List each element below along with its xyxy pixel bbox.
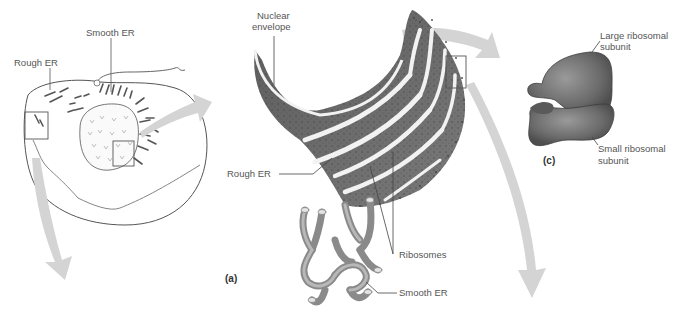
label-nuclear-envelope-line1: Nuclear <box>257 10 290 21</box>
arrow-right <box>140 94 212 138</box>
label-rough-er-detail: Rough ER <box>227 168 271 179</box>
label-large-subunit-line1: Large ribosomal <box>600 30 668 41</box>
er-diagram: Smooth ER Rough ER Nuclear envelope Roug… <box>0 0 686 319</box>
label-large-subunit-line2: subunit <box>600 41 631 52</box>
smooth-er-tubules <box>301 198 382 303</box>
label-smooth-er-detail: Smooth ER <box>399 287 448 298</box>
label-nuclear-envelope-line2: envelope <box>252 21 291 32</box>
label-small-subunit-line1: Small ribosomal <box>598 143 666 154</box>
label-smooth-er-overview: Smooth ER <box>86 27 135 38</box>
nucleus <box>80 104 139 170</box>
label-rough-er-overview: Rough ER <box>14 57 58 68</box>
panel-label-a: (a) <box>225 273 237 284</box>
label-small-subunit-line2: subunit <box>598 155 629 166</box>
diagram-artwork <box>0 0 686 319</box>
arrow-down <box>32 158 72 280</box>
panel-label-c: (c) <box>543 155 555 166</box>
rough-er-inset-box <box>25 112 48 139</box>
ribosome-detail <box>528 41 614 146</box>
label-ribosomes: Ribosomes <box>399 249 447 260</box>
